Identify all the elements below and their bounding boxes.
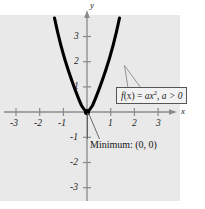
minimum-label: Minimum: (0, 0) [90,139,157,150]
plot-canvas [0,0,205,209]
y-tick-label-1: 1 [74,82,79,92]
y-tick-label-2: 2 [74,57,79,67]
minimum-label-leader [88,113,100,139]
x-tick-label-neg3: -3 [10,119,18,129]
function-callout-leader [125,66,142,89]
callout-condition: , a > 0 [157,91,182,101]
callout-arg: (x) [124,91,135,101]
x-axis-arrowhead [169,109,177,114]
parabola-figure: y x -3 -2 -1 1 2 3 3 2 1 -1 -2 -3 f(x) =… [0,0,205,209]
callout-equals: = [135,91,145,101]
y-tick-label-neg2: -2 [70,158,78,168]
x-tick-label-neg1: -1 [58,119,66,129]
y-tick-label-neg3: -3 [70,183,78,193]
x-tick-label-1: 1 [108,119,113,129]
function-callout-box: f(x) = ax2, a > 0 [116,87,187,104]
y-axis-label: y [90,1,94,10]
y-tick-label-3: 3 [74,32,79,42]
x-tick-label-3: 3 [156,119,161,129]
y-axis-arrowhead [84,10,90,18]
x-tick-label-neg2: -2 [34,119,42,129]
x-tick-label-2: 2 [132,119,137,129]
y-tick-label-neg1: -1 [70,133,78,143]
x-axis-label: x [181,107,185,116]
